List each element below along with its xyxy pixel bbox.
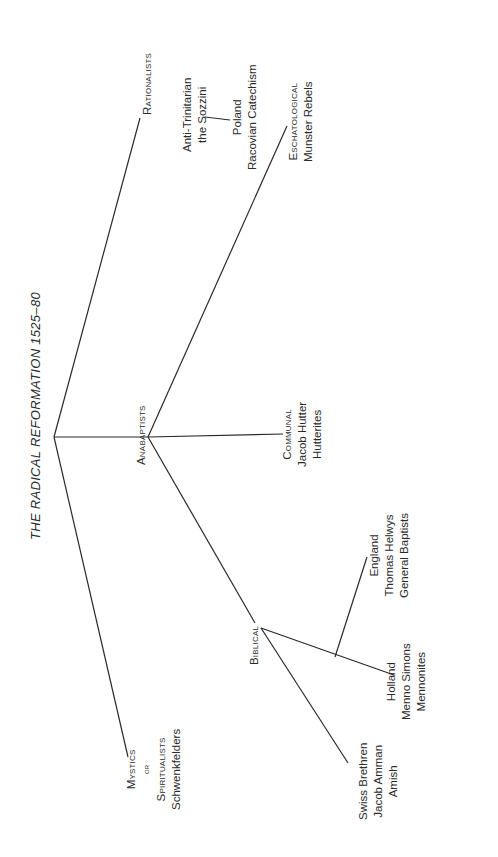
node-communal: Communal Jacob Hutter Hutterites <box>280 402 325 467</box>
node-anti-trinitarian: Anti-Trinitarian the Sozzini <box>180 78 210 152</box>
edge-root-mystics <box>54 437 128 757</box>
node-poland: Poland Racovian Catechism <box>230 65 260 170</box>
node-eschatological: Eschatological Munster Rebels <box>286 81 316 162</box>
node-label: Rationalists <box>140 53 155 115</box>
edge-anabaptists-communal <box>148 434 283 437</box>
edge-anabaptists-eschatological <box>148 126 287 437</box>
node-biblical: Biblical <box>247 626 262 665</box>
edge-biblical-holland <box>261 628 394 675</box>
node-swiss-brethren: Swiss Brethren Jacob Amman Amish <box>356 743 401 820</box>
diagram-title: THE RADICAL REFORMATION 1525–80 <box>28 292 43 540</box>
node-mystics: Mystics or Spiritualists Schwenkfelders <box>124 729 184 810</box>
edge-anabaptists-biblical <box>148 437 255 623</box>
node-holland: Holland Menno Simons Mennonites <box>384 643 429 720</box>
edge-holland-england <box>335 557 367 657</box>
node-rationalists: Rationalists <box>140 53 155 115</box>
edge-biblical-swiss <box>261 628 348 763</box>
node-england: England Thomas Helwys General Baptists <box>367 513 412 598</box>
node-anabaptists: Anabaptists <box>134 405 149 465</box>
edge-root-rationalists <box>54 118 140 437</box>
